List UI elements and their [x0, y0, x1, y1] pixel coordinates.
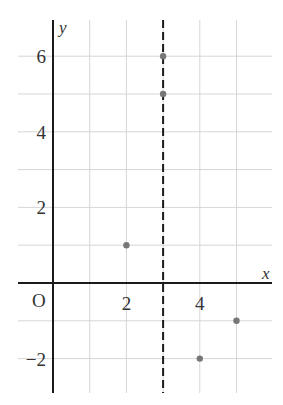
data-point: [233, 318, 239, 324]
x-axis-label: x: [261, 264, 270, 283]
axes: [18, 20, 272, 393]
coordinate-plane: 24642−2 x y O: [0, 0, 283, 405]
y-tick-label: −2: [26, 349, 46, 370]
y-axis-label: y: [57, 18, 67, 37]
data-point: [160, 53, 166, 59]
y-tick-label: 4: [37, 122, 47, 143]
data-point: [160, 91, 166, 97]
data-point: [197, 355, 203, 361]
y-tick-label: 6: [37, 46, 47, 67]
x-tick-label: 4: [195, 293, 205, 314]
grid-lines: [18, 20, 272, 393]
y-tick-label: 2: [37, 197, 47, 218]
origin-label: O: [32, 290, 46, 311]
x-tick-label: 2: [122, 293, 132, 314]
data-point: [123, 242, 129, 248]
